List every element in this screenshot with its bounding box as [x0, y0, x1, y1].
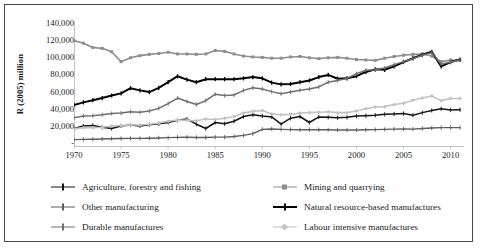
legend-item-label: Other manufacturing [82, 202, 159, 212]
data-point-marker [185, 52, 188, 55]
data-point-marker [289, 55, 292, 58]
legend-column-left: Agriculture, forestry and fishingOther m… [51, 177, 266, 237]
x-axis-tick-label: 2005 [384, 151, 424, 160]
data-point-marker [110, 50, 113, 53]
legend-item[interactable]: Natural resource-based manufactures [273, 197, 481, 217]
data-point-marker [354, 109, 358, 113]
data-point-marker [251, 55, 254, 58]
data-point-marker [374, 59, 377, 62]
legend-column-right: Mining and quarryingNatural resource-bas… [273, 177, 481, 237]
data-point-marker [223, 50, 226, 53]
y-axis-tick-label: 140,000 [26, 19, 74, 28]
series-3 [74, 126, 460, 142]
data-point-marker [449, 97, 453, 101]
data-point-marker [241, 111, 245, 115]
data-point-marker [138, 54, 141, 57]
data-point-marker [402, 101, 406, 105]
legend-item[interactable]: Labour intensive manufactures [273, 217, 481, 237]
data-point-marker [364, 107, 368, 111]
data-point-marker [392, 103, 396, 107]
data-point-marker [204, 52, 207, 55]
data-point-marker [129, 56, 132, 59]
data-point-marker [232, 115, 236, 119]
x-axis-tick-label: 1970 [54, 151, 94, 160]
series-line [74, 52, 460, 105]
y-axis-tick-label: 80,000 [26, 70, 74, 79]
data-point-marker [251, 109, 255, 113]
data-point-marker [214, 49, 217, 52]
data-point-marker [458, 97, 462, 101]
data-point-marker [411, 98, 415, 102]
data-point-marker [308, 56, 311, 59]
y-axis-title-text: R (2005) million [15, 54, 25, 114]
data-point-marker [355, 58, 358, 61]
data-point-marker [261, 56, 264, 59]
legend-item[interactable]: Mining and quarrying [273, 177, 481, 197]
data-point-marker [420, 96, 424, 100]
legend-swatch-icon [273, 222, 297, 232]
data-point-marker [223, 116, 227, 120]
data-point-marker [128, 123, 132, 127]
y-axis-tick-label: 60,000 [26, 88, 74, 97]
legend-swatch-icon [273, 202, 297, 212]
data-point-marker [120, 60, 123, 63]
data-point-marker [100, 125, 104, 129]
x-axis-tick-label: 1985 [195, 151, 235, 160]
y-axis-tick-label: 120,000 [26, 36, 74, 45]
data-point-marker [411, 53, 414, 56]
data-point-marker [194, 119, 198, 123]
data-point-marker [242, 55, 245, 58]
series-line [74, 128, 460, 140]
data-point-marker [74, 39, 76, 42]
data-point-marker [307, 111, 311, 115]
legend-swatch-icon [51, 182, 75, 192]
y-axis-tick-label: - [26, 139, 74, 148]
data-point-marker [110, 124, 114, 128]
data-point-marker [176, 52, 179, 55]
data-point-marker [402, 54, 405, 57]
x-axis-tick-label: 1990 [242, 151, 282, 160]
data-point-marker [327, 56, 330, 59]
y-axis-tick-label: 100,000 [26, 53, 74, 62]
chart-legend: Agriculture, forestry and fishingOther m… [5, 177, 474, 239]
x-axis-tick-label: 2010 [431, 151, 471, 160]
legend-item-label: Labour intensive manufactures [304, 222, 418, 232]
chart-figure: R (2005) million 140,000120,000100,00080… [4, 4, 473, 242]
series-1 [74, 107, 460, 131]
data-point-marker [204, 117, 208, 121]
legend-item[interactable]: Durable manufactures [51, 217, 266, 237]
legend-swatch-icon [51, 222, 75, 232]
legend-item-label: Durable manufactures [82, 222, 163, 232]
legend-item-label: Mining and quarrying [304, 182, 385, 192]
data-point-marker [364, 58, 367, 61]
data-point-marker [298, 55, 301, 58]
legend-swatch-icon [51, 202, 75, 212]
y-axis-tick-label: 40,000 [26, 105, 74, 114]
data-point-marker [336, 56, 339, 59]
data-point-marker [233, 52, 236, 55]
data-point-marker [270, 57, 273, 60]
data-point-marker [82, 42, 85, 45]
series-5 [74, 51, 460, 120]
legend-item[interactable]: Other manufacturing [51, 197, 266, 217]
legend-swatch-icon [273, 182, 297, 192]
data-point-marker [213, 118, 217, 122]
data-point-marker [279, 113, 283, 117]
data-point-marker [345, 111, 349, 115]
data-point-marker [373, 105, 377, 109]
x-axis-tick-label: 1995 [289, 151, 329, 160]
series-line [74, 53, 460, 118]
data-point-marker [270, 112, 274, 116]
data-point-marker [91, 46, 94, 49]
data-point-marker [326, 110, 330, 114]
legend-item[interactable]: Agriculture, forestry and fishing [51, 177, 266, 197]
legend-item-label: Natural resource-based manufactures [304, 202, 441, 212]
data-point-marker [289, 112, 293, 116]
data-point-marker [383, 57, 386, 60]
data-point-marker [101, 47, 104, 50]
data-point-marker [195, 53, 198, 56]
data-point-marker [346, 57, 349, 60]
data-point-marker [298, 111, 302, 115]
data-point-marker [148, 53, 151, 56]
x-axis-tick-label: 2000 [336, 151, 376, 160]
